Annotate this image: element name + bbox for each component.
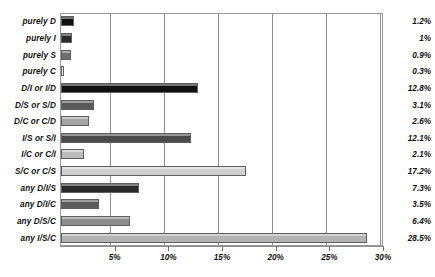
bar-row: any D/I/S7.3% bbox=[0, 179, 435, 196]
bar bbox=[61, 183, 139, 193]
category-label: purely S bbox=[23, 50, 56, 59]
category-label: any D/I/C bbox=[20, 200, 56, 209]
x-tick-label: 20% bbox=[267, 253, 283, 262]
category-label: I/C or C/I bbox=[21, 150, 56, 159]
x-tick-label: 5% bbox=[109, 253, 121, 262]
value-label: 28.5% bbox=[391, 233, 431, 242]
bar bbox=[61, 66, 64, 76]
bar-row: D/I or I/D12.8% bbox=[0, 80, 435, 97]
value-label: 0.9% bbox=[391, 50, 431, 59]
bar-row: purely I1% bbox=[0, 30, 435, 47]
bar-row: I/S or S/I12.1% bbox=[0, 130, 435, 147]
category-label: D/I or I/D bbox=[21, 83, 56, 92]
category-label: I/S or S/I bbox=[22, 133, 56, 142]
value-label: 7.3% bbox=[391, 183, 431, 192]
value-label: 6.4% bbox=[391, 217, 431, 226]
bar bbox=[61, 50, 71, 60]
value-label: 17.2% bbox=[391, 167, 431, 176]
value-label: 1.2% bbox=[391, 17, 431, 26]
bar bbox=[61, 133, 191, 143]
bar-row: purely S0.9% bbox=[0, 46, 435, 63]
bar bbox=[61, 116, 89, 126]
x-tick bbox=[329, 246, 330, 251]
x-tick-label: 10% bbox=[160, 253, 176, 262]
bar-row: any D/S/C6.4% bbox=[0, 213, 435, 230]
x-tick-label: 15% bbox=[214, 253, 230, 262]
bar bbox=[61, 233, 367, 243]
bar bbox=[61, 149, 84, 159]
bar-rows: purely D1.2%purely I1%purely S0.9%purely… bbox=[0, 13, 435, 246]
bar-row: D/S or S/D3.1% bbox=[0, 96, 435, 113]
category-label: any D/I/S bbox=[21, 183, 56, 192]
bar bbox=[61, 199, 99, 209]
bar-row: purely D1.2% bbox=[0, 13, 435, 30]
value-label: 12.8% bbox=[391, 83, 431, 92]
bar bbox=[61, 100, 94, 110]
category-label: S/C or C/S bbox=[15, 167, 56, 176]
bar-row: S/C or C/S17.2% bbox=[0, 163, 435, 180]
x-tick bbox=[383, 246, 384, 251]
bar bbox=[61, 33, 72, 43]
bar bbox=[61, 16, 74, 26]
value-label: 2.6% bbox=[391, 117, 431, 126]
category-label: purely I bbox=[26, 33, 56, 42]
value-label: 3.5% bbox=[391, 200, 431, 209]
bar-row: I/C or C/I2.1% bbox=[0, 146, 435, 163]
value-label: 1% bbox=[391, 33, 431, 42]
bar-row: D/C or C/D2.6% bbox=[0, 113, 435, 130]
category-label: D/S or S/D bbox=[15, 100, 56, 109]
bar bbox=[61, 83, 198, 93]
category-label: any D/S/C bbox=[17, 217, 56, 226]
x-tick-label: 25% bbox=[321, 253, 337, 262]
bar-row: any D/I/C3.5% bbox=[0, 196, 435, 213]
x-tick bbox=[115, 246, 116, 251]
bar-chart: purely D1.2%purely I1%purely S0.9%purely… bbox=[0, 0, 435, 277]
value-label: 12.1% bbox=[391, 133, 431, 142]
bar bbox=[61, 166, 246, 176]
category-label: purely C bbox=[22, 67, 56, 76]
category-label: D/C or C/D bbox=[14, 117, 56, 126]
value-label: 2.1% bbox=[391, 150, 431, 159]
x-tick-label: 30% bbox=[375, 253, 391, 262]
value-label: 3.1% bbox=[391, 100, 431, 109]
bar-row: purely C0.3% bbox=[0, 63, 435, 80]
x-tick bbox=[168, 246, 169, 251]
x-tick bbox=[222, 246, 223, 251]
x-tick bbox=[276, 246, 277, 251]
value-label: 0.3% bbox=[391, 67, 431, 76]
bar bbox=[61, 216, 130, 226]
category-label: purely D bbox=[22, 17, 56, 26]
bar-row: any I/S/C28.5% bbox=[0, 229, 435, 246]
category-label: any I/S/C bbox=[21, 233, 56, 242]
